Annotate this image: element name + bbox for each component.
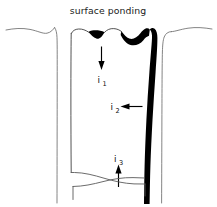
- figure-caption: surface ponding: [70, 5, 147, 16]
- flux-3-label: i: [114, 154, 117, 164]
- wetting-front: [144, 28, 157, 204]
- flux-2-arrow-head: [121, 103, 130, 109]
- outer-wall-right: [162, 32, 172, 203]
- ground-surface-right: [172, 28, 213, 32]
- outer-wall-left: [55, 28, 58, 203]
- ground-surface-left: [6, 28, 55, 34]
- flux-2-label: i: [111, 102, 114, 112]
- diagram-canvas: surface ponding i 1 i 2 i 3: [0, 0, 217, 207]
- column-rim-middle: [105, 29, 122, 33]
- column-rim-left: [71, 29, 88, 34]
- lens-lower-edge: [73, 178, 145, 187]
- flux-2-subscript: 2: [116, 107, 120, 115]
- flux-1-subscript: 1: [103, 80, 107, 88]
- flux-3-subscript: 3: [119, 159, 123, 167]
- flux-1-arrow-head: [98, 61, 104, 70]
- surface-pond-left: [88, 30, 104, 38]
- surface-pond-right: [121, 28, 150, 45]
- lens-upper-edge: [71, 173, 145, 185]
- infiltration-diagram: surface ponding i 1 i 2 i 3: [0, 0, 217, 207]
- flux-1-label: i: [98, 75, 101, 85]
